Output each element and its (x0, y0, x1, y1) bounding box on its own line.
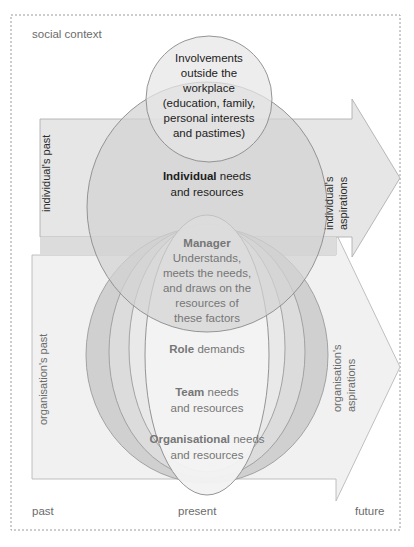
svg-text:personal interests: personal interests (164, 112, 255, 124)
svg-text:Involvements: Involvements (175, 52, 243, 64)
role-rest: demands (194, 343, 245, 355)
svg-text:these factors: these factors (174, 312, 240, 324)
svg-text:and pastimes): and pastimes) (173, 127, 245, 139)
svg-text:workplace: workplace (182, 82, 235, 94)
svg-text:meets the needs,: meets the needs, (163, 267, 251, 279)
svg-text:resources of: resources of (175, 297, 239, 309)
diagram-svg: social context individual's past individ… (0, 0, 414, 547)
svg-text:and draws on the: and draws on the (163, 282, 251, 294)
svg-text:Understands,: Understands, (173, 252, 241, 264)
svg-text:Team needs: Team needs (175, 386, 239, 398)
organisation-aspirations-label-line2: aspirations (345, 358, 357, 412)
role-text: Role demands (169, 343, 245, 355)
organisation-past-label: organisation's past (37, 334, 49, 425)
past-label: past (32, 505, 55, 517)
individual-aspirations-label-line2: aspirations (337, 176, 349, 230)
svg-text:and resources: and resources (171, 186, 244, 198)
present-label: present (178, 505, 217, 517)
svg-text:Role demands: Role demands (169, 343, 245, 355)
team-rest: needs (204, 386, 239, 398)
svg-text:and resources: and resources (171, 402, 244, 414)
organisation-aspirations-label-line1: organisation's (331, 344, 343, 412)
individual-past-label: individual's past (40, 135, 52, 212)
svg-text:(education, family,: (education, family, (163, 97, 255, 109)
diagram-canvas: social context individual's past individ… (0, 0, 414, 547)
team-bold: Team (175, 386, 204, 398)
svg-text:Organisational needs: Organisational needs (149, 433, 264, 445)
individual-bold: Individual (163, 170, 217, 182)
svg-text:and resources: and resources (171, 449, 244, 461)
svg-text:Manager: Manager (183, 237, 231, 249)
social-context-label: social context (32, 28, 102, 40)
svg-text:outside the: outside the (181, 67, 237, 79)
individual-aspirations-label-line1: individual's (323, 176, 335, 230)
role-bold: Role (169, 343, 194, 355)
svg-text:Individual needs: Individual needs (163, 170, 251, 182)
future-label: future (355, 505, 384, 517)
individual-rest: needs (217, 170, 252, 182)
organisational-rest: needs (230, 433, 265, 445)
organisational-bold: Organisational (149, 433, 230, 445)
